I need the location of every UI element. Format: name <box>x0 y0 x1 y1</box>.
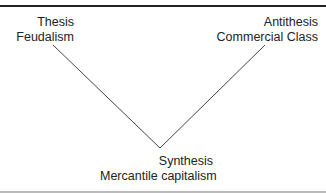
antithesis-name: Commercial Class <box>217 30 318 45</box>
synthesis-name: Mercantile capitalism <box>100 169 213 184</box>
thesis-label: Thesis Feudalism <box>6 15 74 45</box>
synthesis-role: Synthesis <box>100 154 213 169</box>
thesis-name: Feudalism <box>6 30 74 45</box>
antithesis-role: Antithesis <box>217 15 318 30</box>
antithesis-label: Antithesis Commercial Class <box>217 15 318 45</box>
thesis-to-synthesis-line <box>53 45 160 148</box>
bottom-border <box>0 191 326 193</box>
thesis-role: Thesis <box>6 15 74 30</box>
synthesis-label: Synthesis Mercantile capitalism <box>100 154 213 184</box>
antithesis-to-synthesis-line <box>160 45 265 148</box>
